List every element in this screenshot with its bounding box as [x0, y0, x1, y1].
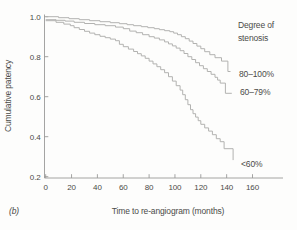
curve-label-60-79: 60–79% — [240, 87, 271, 97]
x-tick-label: 60 — [119, 183, 128, 192]
legend-title-line1: Degree of — [238, 20, 275, 30]
x-axis-title: Time to re-angiogram (months) — [112, 206, 225, 216]
x-tick-label: 100 — [168, 183, 182, 192]
y-tick-label: 0.8 — [30, 53, 41, 62]
x-axis-ticks: 020406080100120140160 — [44, 174, 260, 191]
y-tick-label: 0.2 — [30, 173, 41, 182]
curve-60-79 — [46, 20, 232, 94]
panel-label: (b) — [9, 206, 19, 216]
chart-canvas: 1.00.80.60.40.2 020406080100120140160 Cu… — [0, 0, 297, 230]
legend-title-line2: stenosis — [238, 33, 268, 43]
curve-under-60 — [46, 21, 233, 160]
x-tick-label: 160 — [246, 183, 260, 192]
x-tick-label: 140 — [220, 183, 234, 192]
y-axis-ticks: 1.00.80.60.40.2 — [30, 13, 48, 182]
y-tick-label: 1.0 — [30, 13, 41, 22]
curve-80-100 — [46, 17, 231, 72]
x-tick-label: 20 — [67, 183, 76, 192]
x-tick-label: 40 — [93, 183, 102, 192]
x-tick-label: 0 — [44, 183, 49, 192]
curves-group — [46, 17, 233, 160]
y-tick-label: 0.6 — [30, 93, 41, 102]
curve-label-80-100: 80–100% — [239, 69, 274, 79]
y-tick-label: 0.4 — [30, 133, 41, 142]
y-axis-title: Cumulative patency — [3, 59, 13, 132]
curve-label-under-60: <60% — [241, 159, 263, 169]
x-tick-label: 80 — [145, 183, 154, 192]
survival-curve-figure: 1.00.80.60.40.2 020406080100120140160 Cu… — [0, 0, 297, 230]
x-tick-label: 120 — [194, 183, 208, 192]
